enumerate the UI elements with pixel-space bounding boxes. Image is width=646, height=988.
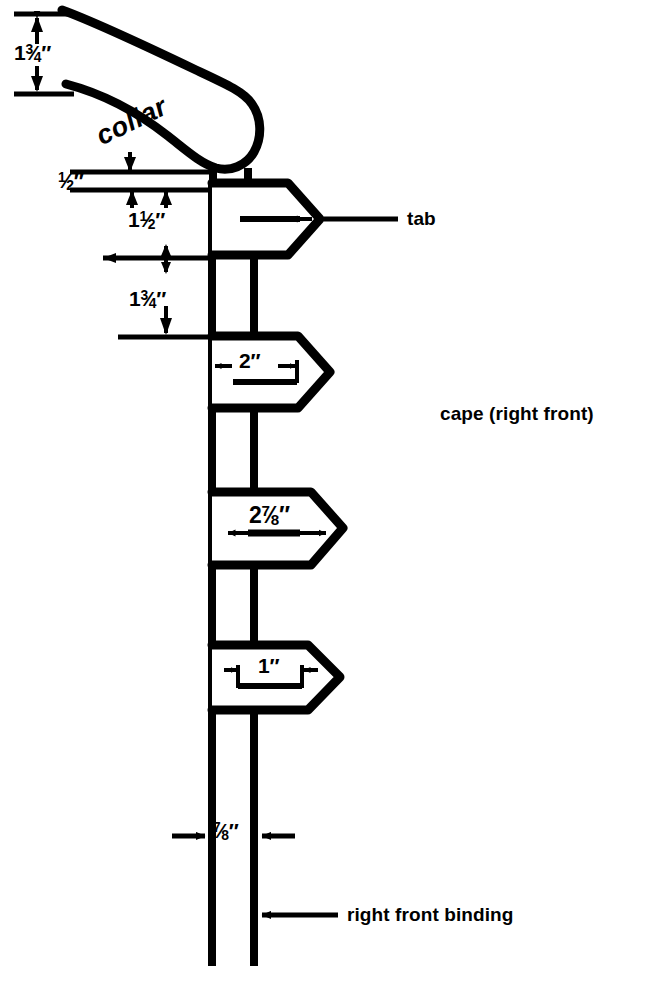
tab-2-shape (212, 336, 330, 408)
tab-3-shape (212, 492, 343, 565)
dimension-label-tab-width-3: 27⁄8″ (249, 504, 289, 527)
dimension-label-collar-depth: 13⁄4″ (14, 42, 50, 63)
dimension-neck-gap (70, 152, 212, 208)
cape-label: cape (right front) (440, 404, 594, 423)
dimension-label-tab-width-4: 1″ (258, 655, 279, 676)
dimension-tab-spacing (118, 306, 212, 337)
binding-strips (212, 182, 254, 966)
collar-shape (62, 10, 260, 169)
dimension-label-tab-width-2: 2″ (239, 350, 260, 371)
dimension-label-tab-height: 11⁄2″ (128, 209, 164, 230)
dimension-tab-height (103, 244, 212, 274)
tab-callout-label: tab (407, 209, 436, 228)
dimension-label-binding-width: 7⁄8″ (213, 820, 238, 841)
tab-1-shape (212, 183, 320, 255)
dimension-label-neck-gap: 1⁄2″ (58, 170, 83, 191)
pattern-diagram: 13⁄4″ collar 1⁄2″ 11⁄2″ 13⁄4″ 2″ 27⁄8″ 1… (0, 0, 646, 988)
diagram-canvas (0, 0, 646, 988)
binding-callout-label: right front binding (347, 905, 514, 924)
dimension-label-tab-spacing: 13⁄4″ (129, 288, 165, 309)
